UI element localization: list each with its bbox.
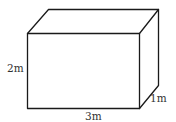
top-face	[28, 10, 159, 34]
width-label: 3m	[85, 110, 102, 122]
height-label: 2m	[7, 62, 24, 74]
prism-diagram: 2m 3m 1m	[0, 0, 176, 122]
front-face	[28, 34, 140, 109]
depth-label: 1m	[150, 92, 167, 104]
